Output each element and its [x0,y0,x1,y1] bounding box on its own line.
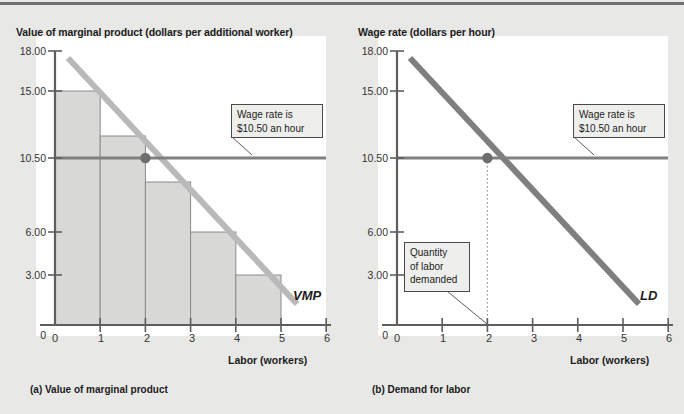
bar-worker-3 [145,182,190,325]
curve-label-ld: LD [640,288,657,303]
callout-leader-a [232,137,252,155]
chart-graphics-b [342,14,684,376]
panel-value-of-marginal-product: Value of marginal product (dollars per a… [0,14,342,376]
panel-caption-a: (a) Value of marginal product [30,384,168,395]
callout-line-2: $10.50 an hour [237,122,317,136]
quantity-callout-line-1: Quantity [410,246,464,260]
callout-line-1: Wage rate is [237,108,317,122]
intersection-dot-a [140,153,150,163]
figure-container: Value of marginal product (dollars per a… [0,0,684,414]
bar-worker-2 [100,136,145,325]
callout-wage-rate-b: Wage rate is $10.50 an hour [573,104,665,138]
panel-demand-for-labor: Wage rate (dollars per hour) 18.00 15.00… [342,14,684,376]
bar-worker-1 [55,91,100,325]
callout-leader-b-wage [574,137,594,155]
callout-quantity-demanded: Quantity of labor demanded [404,242,470,292]
panel-caption-b: (b) Demand for labor [372,384,470,395]
callout-leader-b-quantity [447,291,487,324]
callout-line-2-b: $10.50 an hour [579,122,659,136]
bar-worker-4 [191,232,236,325]
quantity-callout-line-2: of labor [410,260,464,274]
callout-wage-rate-a: Wage rate is $10.50 an hour [231,104,323,138]
chart-graphics-a [0,14,342,376]
top-divider-rule [0,2,684,5]
callout-line-1-b: Wage rate is [579,108,659,122]
curve-label-vmp: VMP [293,288,321,303]
quantity-callout-line-3: demanded [410,273,464,287]
intersection-dot-b [482,153,492,163]
